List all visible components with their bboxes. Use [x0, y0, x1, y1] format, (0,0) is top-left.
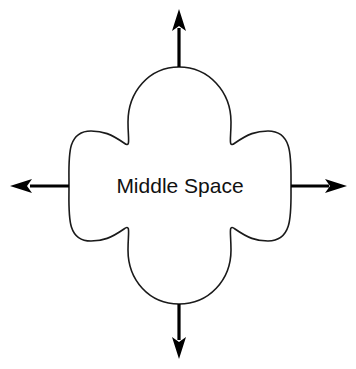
arrow-up	[172, 9, 186, 67]
arrow-up-head	[172, 9, 186, 31]
center-label: Middle Space	[116, 174, 243, 197]
arrow-right	[291, 179, 347, 193]
arrow-left	[10, 179, 69, 193]
arrow-down-head	[172, 337, 186, 359]
middle-space-diagram: Middle Space	[0, 0, 356, 369]
arrow-down	[172, 304, 186, 359]
diagram-canvas: Middle Space	[0, 0, 356, 369]
arrow-left-head	[10, 179, 32, 193]
